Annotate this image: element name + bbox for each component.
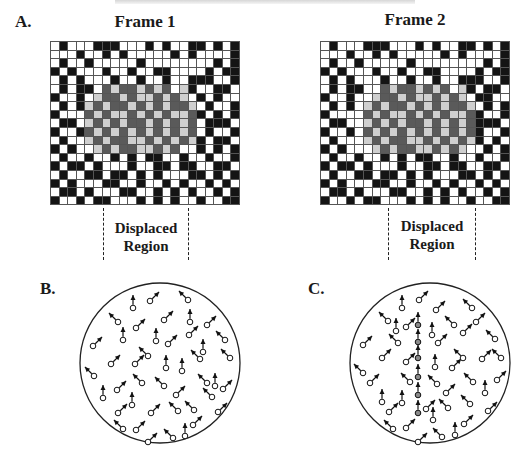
dot-with-motion-arrow — [485, 402, 497, 414]
arrow-head-icon — [416, 345, 421, 350]
arrow-head-icon — [416, 400, 421, 405]
dot-with-motion-arrow — [428, 375, 440, 387]
dot-with-motion-arrow — [449, 359, 461, 371]
dot-with-motion-arrow — [473, 313, 485, 325]
dot-with-motion-arrow — [433, 428, 445, 440]
arrow-head-icon — [433, 354, 438, 359]
dot-with-motion-arrow — [415, 329, 421, 345]
dot-with-motion-arrow — [399, 390, 405, 406]
dot-with-motion-arrow — [379, 389, 385, 405]
dot-with-motion-arrow — [461, 415, 473, 427]
dot-with-motion-arrow — [399, 295, 405, 311]
dot-with-motion-arrow — [463, 299, 475, 311]
dot-with-motion-arrow — [386, 403, 398, 415]
dot-with-motion-arrow — [445, 316, 457, 328]
dot-with-motion-arrow — [367, 374, 379, 386]
arrow-head-icon — [431, 407, 436, 412]
dot-with-motion-arrow — [435, 334, 447, 346]
dot-with-motion-arrow — [379, 312, 391, 324]
dot-with-motion-arrow — [415, 364, 421, 380]
dot-with-motion-arrow — [464, 373, 476, 385]
dot-with-motion-arrow — [494, 371, 506, 383]
dot-with-motion-arrow — [393, 318, 399, 334]
arrow-head-icon — [430, 322, 435, 327]
coherent-dot-field-c — [0, 0, 529, 466]
dot-with-motion-arrow — [416, 291, 428, 303]
dot-with-motion-arrow — [389, 334, 401, 346]
dot-with-motion-arrow — [461, 395, 473, 407]
dot-with-motion-arrow — [403, 353, 415, 365]
dot-with-motion-arrow — [429, 322, 435, 338]
dot-with-motion-arrow — [433, 301, 445, 313]
dot-with-motion-arrow — [403, 318, 415, 330]
arrow-head-icon — [400, 295, 405, 300]
dot-with-motion-arrow — [360, 336, 372, 348]
dot-with-motion-arrow — [486, 330, 498, 342]
arrow-head-icon — [416, 312, 421, 317]
dot-with-motion-arrow — [482, 380, 488, 396]
arrow-head-icon — [416, 329, 421, 334]
arrow-head-icon — [380, 389, 385, 394]
dot-with-motion-arrow — [460, 324, 472, 336]
dot-with-motion-arrow — [492, 349, 504, 361]
dot-with-motion-arrow — [379, 349, 391, 361]
dot-with-motion-arrow — [454, 349, 466, 361]
dot-with-motion-arrow — [415, 400, 421, 416]
dot-with-motion-arrow — [479, 350, 491, 362]
dot-with-motion-arrow — [443, 384, 455, 396]
dot-with-motion-arrow — [415, 312, 421, 328]
arrow-head-icon — [400, 390, 405, 395]
arrow-head-icon — [416, 364, 421, 369]
dot-with-motion-arrow — [403, 419, 415, 431]
dot-with-motion-arrow — [452, 422, 458, 438]
dot-with-motion-arrow — [432, 354, 438, 370]
dot-with-motion-arrow — [415, 345, 421, 361]
dot-with-motion-arrow — [415, 382, 421, 398]
dot-with-motion-arrow — [354, 364, 366, 376]
arrow-head-icon — [483, 380, 488, 385]
arrow-head-icon — [394, 318, 399, 323]
dot-with-motion-arrow — [439, 399, 451, 411]
dot-with-motion-arrow — [401, 373, 413, 385]
dot-with-motion-arrow — [430, 407, 436, 423]
arrow-head-icon — [416, 382, 421, 387]
arrow-head-icon — [453, 422, 458, 427]
